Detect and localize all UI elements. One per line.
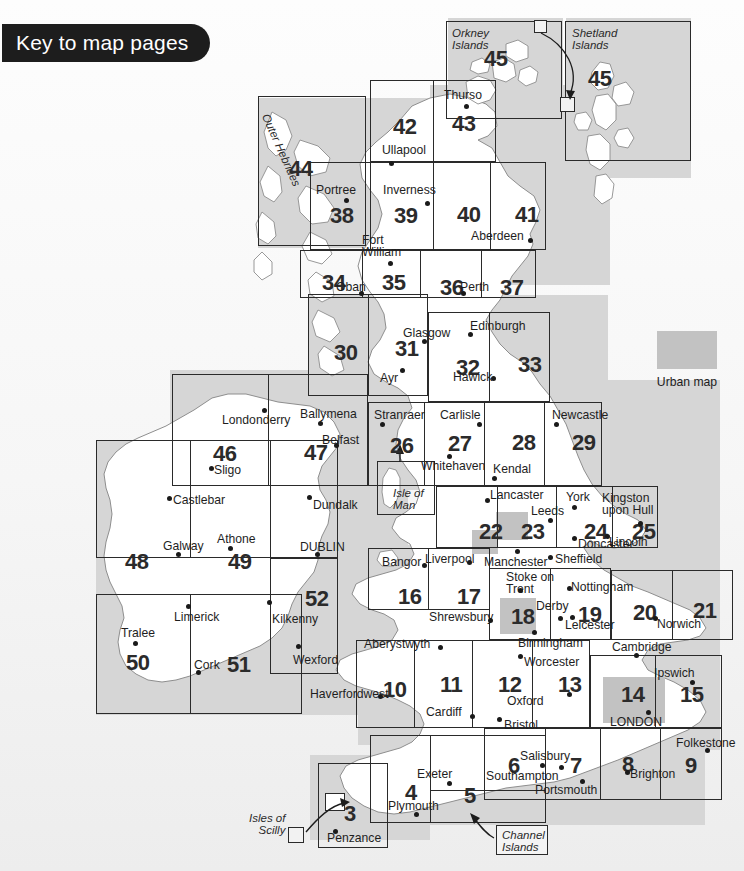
place-label-bangor: Bangor xyxy=(382,556,421,568)
shetland-connector-top[interactable] xyxy=(534,20,547,33)
isles-of-scilly-label: Isles ofScilly xyxy=(249,812,285,836)
place-dot-dublin xyxy=(315,552,320,557)
grid-div-30-31 xyxy=(368,294,369,396)
page-number-38-5[interactable]: 38 xyxy=(330,205,353,227)
place-dot-thurso xyxy=(464,104,469,109)
place-label-oxford: Oxford xyxy=(507,695,544,707)
page-number-44-4[interactable]: 44 xyxy=(289,158,312,180)
map-key-page: .land{fill:#ffffff;stroke:#8e8e8e;stroke… xyxy=(0,0,744,871)
page-number-43-3[interactable]: 43 xyxy=(452,113,475,135)
page-number-52-29[interactable]: 52 xyxy=(305,588,328,610)
page-number-22-23[interactable]: 22 xyxy=(479,521,502,543)
place-label-exeter: Exeter xyxy=(417,768,452,780)
place-dot-exeter xyxy=(447,781,452,786)
page-number-16-30[interactable]: 16 xyxy=(398,586,421,608)
place-label-plymouth: Plymouth xyxy=(388,800,439,812)
place-label-inverness: Inverness xyxy=(383,184,436,196)
page-number-51-37[interactable]: 51 xyxy=(227,654,250,676)
place-label-derby: Derby xyxy=(536,600,569,612)
page-number-46-21[interactable]: 46 xyxy=(213,443,236,465)
page-number-41-8[interactable]: 41 xyxy=(515,204,538,226)
page-number-37-12[interactable]: 37 xyxy=(500,277,523,299)
grid-div-12-13 xyxy=(532,640,533,728)
page-number-28-19[interactable]: 28 xyxy=(512,432,535,454)
page-number-45-1[interactable]: 45 xyxy=(588,68,611,90)
page-number-14-42[interactable]: 14 xyxy=(621,684,644,706)
page-number-49-28[interactable]: 49 xyxy=(228,551,251,573)
place-dot-portsmouth xyxy=(580,779,585,784)
place-label-whitehaven: Whitehaven xyxy=(421,460,485,472)
page-number-20-34[interactable]: 20 xyxy=(633,602,656,624)
grid-div-28-29 xyxy=(544,402,545,486)
place-dot-castlebar xyxy=(167,496,172,501)
place-dot-belfast xyxy=(334,443,339,448)
place-dot-salisbury xyxy=(540,763,545,768)
place-dot-lincoln xyxy=(605,534,610,539)
page-number-7-48[interactable]: 7 xyxy=(570,755,582,777)
page-number-3-44[interactable]: 3 xyxy=(344,803,356,825)
legend-urban-swatch xyxy=(657,331,717,369)
grid-div-42-43 xyxy=(433,80,434,162)
page-number-27-18[interactable]: 27 xyxy=(448,433,471,455)
place-label-aberdeen: Aberdeen xyxy=(471,230,524,242)
page-number-23-24[interactable]: 23 xyxy=(521,521,544,543)
place-dot-aberdeen xyxy=(528,238,533,243)
page-number-18-32[interactable]: 18 xyxy=(511,606,534,628)
page-number-26-17[interactable]: 26 xyxy=(390,435,413,457)
place-dot-ballymena xyxy=(318,421,323,426)
place-label-sheffield: Sheffield xyxy=(555,553,602,565)
place-label-cambridge: Cambridge xyxy=(612,641,672,653)
place-label-ullapool: Ullapool xyxy=(382,144,426,156)
place-dot-stranraer xyxy=(380,422,385,427)
page-number-39-6[interactable]: 39 xyxy=(394,205,417,227)
place-label-kingston-upon-hull: Kingstonupon Hull xyxy=(602,492,654,516)
scilly-marker-box[interactable] xyxy=(288,827,304,843)
legend: Urban map xyxy=(657,331,724,389)
page-number-31-14[interactable]: 31 xyxy=(395,338,418,360)
place-dot-bristol xyxy=(497,717,502,722)
place-label-norwich: Norwich xyxy=(657,618,701,630)
page-number-42-2[interactable]: 42 xyxy=(393,116,416,138)
page-number-11-39[interactable]: 11 xyxy=(440,674,462,696)
page-number-45-0[interactable]: 45 xyxy=(484,48,507,70)
page-number-29-20[interactable]: 29 xyxy=(572,432,595,454)
place-dot-leeds xyxy=(548,518,553,523)
page-number-9-50[interactable]: 9 xyxy=(685,755,697,777)
page-number-17-31[interactable]: 17 xyxy=(457,586,480,608)
place-label-southampton: Southampton xyxy=(486,770,559,782)
place-label-nottingham: Nottingham xyxy=(571,581,633,593)
grid-div-10-11 xyxy=(414,640,415,728)
place-dot-aberystwyth xyxy=(438,645,443,650)
place-label-ayr: Ayr xyxy=(380,372,398,384)
place-label-haverfordwest: Haverfordwest xyxy=(310,688,389,700)
grid-div-35-36 xyxy=(420,250,421,298)
page-number-48-27[interactable]: 48 xyxy=(125,551,148,573)
place-label-athone: Athone xyxy=(217,533,256,545)
page-number-30-13[interactable]: 30 xyxy=(334,342,357,364)
grid-div-49-52 xyxy=(270,440,271,558)
page-number-40-7[interactable]: 40 xyxy=(457,204,480,226)
page-number-5-46[interactable]: 5 xyxy=(464,785,476,807)
place-label-glasgow: Glasgow xyxy=(403,327,450,339)
scilly-inset-box[interactable] xyxy=(325,793,345,811)
place-label-sligo: Sligo xyxy=(214,464,241,476)
isle-of-man-label: Isle ofMan xyxy=(393,487,424,511)
place-dot-nottingham xyxy=(567,586,572,591)
place-label-ipswich: Ipswich xyxy=(654,667,695,679)
place-dot-derby xyxy=(558,616,563,621)
place-label-hawick: Hawick xyxy=(453,371,492,383)
place-label-stranraer: Stranraer xyxy=(374,409,425,421)
place-dot-glasgow xyxy=(422,339,427,344)
place-dot-kingston-upon-hull xyxy=(638,521,643,526)
page-number-50-36[interactable]: 50 xyxy=(126,652,149,674)
place-dot-doncaster xyxy=(572,536,577,541)
page-number-12-40[interactable]: 12 xyxy=(498,674,521,696)
grid-div-7-8 xyxy=(600,728,601,800)
place-dot-york xyxy=(572,505,577,510)
shetland-connector-bottom[interactable] xyxy=(560,97,575,112)
legend-urban-label: Urban map xyxy=(650,375,724,389)
page-number-33-16[interactable]: 33 xyxy=(518,354,541,376)
page-number-35-10[interactable]: 35 xyxy=(382,272,405,294)
place-label-cardiff: Cardiff xyxy=(426,706,462,718)
page-number-15-43[interactable]: 15 xyxy=(680,684,703,706)
